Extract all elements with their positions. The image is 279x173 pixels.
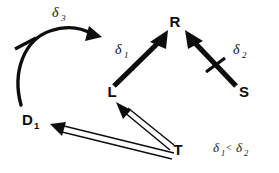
edge-l-to-r [114, 30, 168, 86]
node-label-D1-subscript: 1 [34, 120, 40, 131]
node-label-D1-group: D 1 [22, 111, 40, 131]
edge-d1-curve-path [18, 28, 92, 105]
edge-label-delta2-group: δ 2 [233, 42, 247, 60]
inequality-note: δ 1 < δ 2 [213, 140, 249, 158]
edge-label-delta3: δ [52, 5, 59, 20]
edge-t-to-l [116, 102, 174, 150]
edge-label-delta1-group: δ 1 [115, 42, 129, 60]
inequality-operator: < [226, 142, 232, 153]
edge-s-to-r [185, 30, 236, 86]
edge-label-delta2-subscript: 2 [242, 50, 247, 60]
edge-d1-curve-arrowhead [85, 26, 102, 41]
edge-label-delta3-subscript: 3 [60, 13, 66, 23]
edge-t-to-d1 [50, 122, 174, 159]
diagram-canvas: R L D 1 T S δ 3 δ 1 δ 2 δ 1 < δ 2 [0, 0, 279, 173]
edge-label-delta1: δ [115, 42, 122, 57]
edge-t-to-d1-arrowhead [50, 122, 66, 136]
node-label-D1: D [22, 111, 33, 128]
node-label-T: T [173, 141, 182, 158]
node-label-S: S [239, 83, 249, 100]
inequality-left-subscript: 1 [221, 148, 225, 158]
edge-label-delta2: δ [233, 42, 240, 57]
node-label-L: L [107, 83, 116, 100]
inequality-right-subscript: 2 [244, 148, 249, 158]
diagram-svg: R L D 1 T S δ 3 δ 1 δ 2 δ 1 < δ 2 [0, 0, 279, 173]
node-label-R: R [170, 13, 181, 30]
edge-t-to-l-line-a [124, 112, 170, 150]
edge-t-to-l-line-b [128, 108, 174, 145]
edge-label-delta3-group: δ 3 [52, 5, 66, 23]
inequality-left-symbol: δ [213, 140, 220, 155]
edge-d1-curve [15, 26, 102, 105]
edge-label-delta1-subscript: 1 [124, 50, 129, 60]
inequality-right-symbol: δ [236, 140, 243, 155]
edge-t-to-d1-line-a [62, 132, 172, 159]
